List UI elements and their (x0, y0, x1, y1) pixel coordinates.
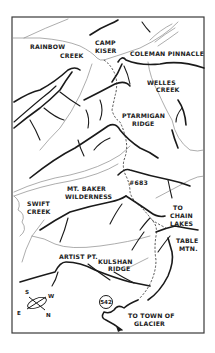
compass-south: S (25, 289, 29, 295)
label-camp-kiser-2: KISER (95, 47, 117, 54)
label-artist-pt: ARTIST PT. (59, 253, 98, 260)
label-coleman-pinnacle: COLEMAN PINNACLE (130, 50, 204, 57)
label-chain-lakes-1: TO (173, 204, 183, 211)
compass-east: E (17, 310, 21, 316)
label-camp-kiser-1: CAMP (95, 39, 116, 46)
label-trail-number: #683 (129, 179, 148, 186)
map-frame (12, 17, 204, 333)
compass-west: W (48, 293, 54, 299)
label-chain-lakes-3: LAKES (170, 220, 193, 227)
compass-north: N (46, 312, 51, 318)
label-table-mtn-2: MTN. (179, 245, 198, 252)
trail-map: 542 S W E N RAINBOW CREEK CAMP KISER COL… (0, 0, 215, 353)
label-swift-creek-2: CREEK (27, 208, 51, 215)
label-welles-creek-1: WELLES (147, 79, 176, 86)
label-town-1: TO TOWN OF (128, 312, 175, 319)
label-chain-lakes-2: CHAIN (170, 212, 193, 219)
label-ptarmigan-ridge-2: RIDGE (132, 120, 155, 127)
label-welles-creek-2: CREEK (156, 86, 180, 93)
label-rainbow-creek-2: CREEK (60, 52, 84, 59)
highway-number: 542 (100, 299, 112, 305)
label-table-mtn-1: TABLE (176, 237, 198, 244)
label-town-2: GLACIER (134, 320, 165, 327)
label-kulshan-ridge-2: RIDGE (108, 265, 131, 272)
label-mt-baker-2: WILDERNESS (65, 193, 112, 200)
label-swift-creek-1: SWIFT (27, 200, 51, 207)
label-ptarmigan-ridge-1: PTARMIGAN (122, 112, 165, 119)
label-mt-baker-1: MT. BAKER (67, 185, 106, 192)
label-rainbow-creek-1: RAINBOW (30, 43, 65, 50)
label-kulshan-ridge-1: KULSHAN (98, 258, 133, 265)
